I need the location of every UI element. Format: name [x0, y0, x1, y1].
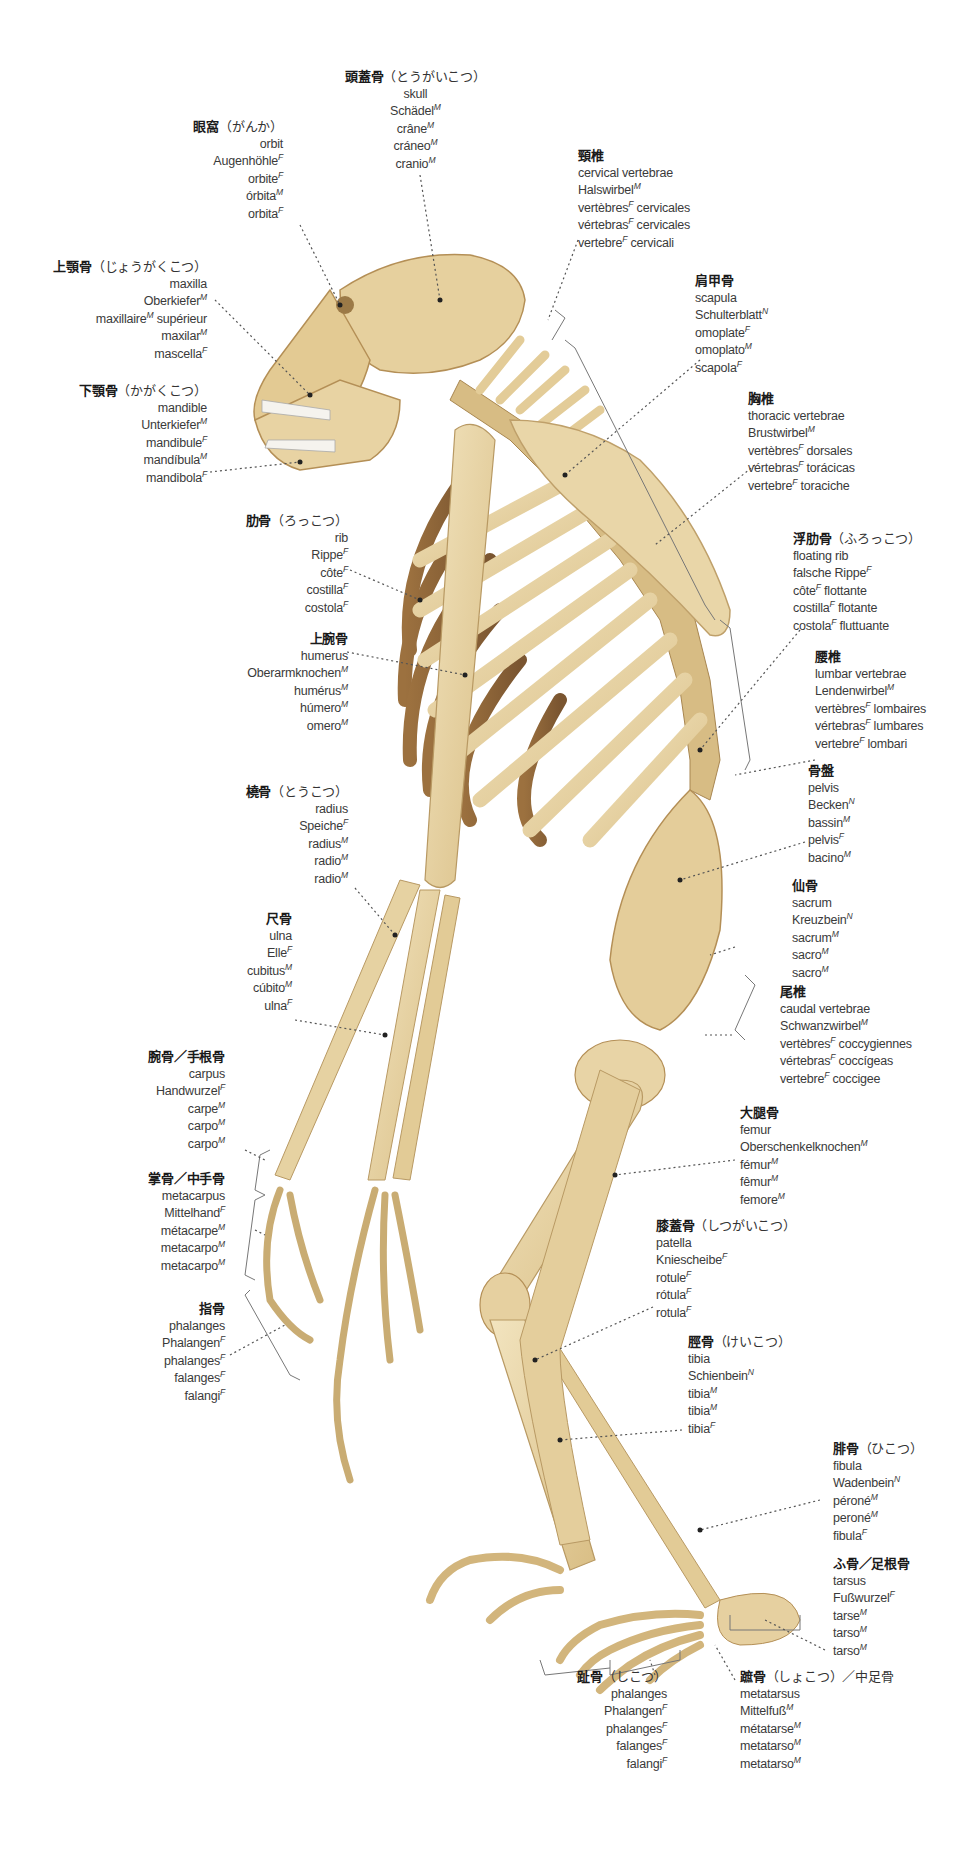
- gender-marker: M: [794, 1720, 801, 1730]
- term-translation: fémurM: [740, 1157, 867, 1175]
- gender-marker: F: [737, 359, 742, 369]
- term-translation: tarsoM: [833, 1625, 910, 1643]
- term-translation: SchädelM: [345, 103, 486, 121]
- term-translation: metacarpoM: [148, 1258, 225, 1276]
- japanese-name: 掌骨／中手骨: [148, 1171, 225, 1186]
- term-translation: vértebrasF torácicas: [748, 460, 855, 478]
- gender-marker: M: [710, 1402, 717, 1412]
- label-orbit: 眼窩（がんか）orbitAugenhöhleForbiteFórbitaMorb…: [193, 118, 283, 223]
- term-translation: vertebreF lombari: [815, 736, 926, 754]
- gender-marker: M: [341, 664, 348, 674]
- kana-reading: （ろっこつ）: [271, 513, 348, 528]
- japanese-name: 腓骨: [833, 1441, 859, 1456]
- term-translation: falangiF: [577, 1756, 667, 1774]
- gender-marker: M: [745, 341, 752, 351]
- label-heading-ja: 腰椎: [815, 648, 926, 666]
- term-translation: HalswirbelM: [578, 182, 690, 200]
- term-translation: costillaF flotante: [793, 600, 921, 618]
- label-tarsus: ふ骨／足根骨tarsusFußwurzelFtarseMtarsoMtarsoM: [833, 1555, 910, 1660]
- label-heading-ja: 肋骨（ろっこつ）: [246, 512, 348, 530]
- term-translation: peronéM: [833, 1510, 923, 1528]
- term-translation: omeroM: [247, 718, 348, 736]
- term-translation: FußwurzelF: [833, 1590, 910, 1608]
- term-translation: fêmurM: [740, 1174, 867, 1192]
- term-translation: sacroM: [792, 965, 852, 983]
- term-translation: vértebrasF lumbares: [815, 718, 926, 736]
- term-translation: bassinM: [808, 815, 854, 833]
- japanese-name: 眼窩: [193, 119, 219, 134]
- gender-marker: F: [890, 1589, 895, 1599]
- term-translation: radioM: [246, 871, 348, 889]
- gender-marker: M: [285, 979, 292, 989]
- gender-marker: F: [343, 564, 348, 574]
- label-heading-ja: 浮肋骨（ふろっこつ）: [793, 530, 921, 548]
- label-carpus: 腕骨／手根骨carpusHandwurzelFcarpeMcarpoMcarpo…: [148, 1048, 225, 1153]
- term-translation: pelvisF: [808, 832, 854, 850]
- gender-marker: M: [218, 1222, 225, 1232]
- gender-marker: M: [860, 1624, 867, 1634]
- term-translation: AugenhöhleF: [193, 153, 283, 171]
- gender-marker: F: [202, 469, 207, 479]
- label-cervical-vertebrae: 頸椎cervical vertebraeHalswirbelMvertèbres…: [578, 147, 690, 252]
- gender-marker: N: [894, 1474, 900, 1484]
- term-translation: fibula: [833, 1458, 923, 1476]
- label-scapula: 肩甲骨scapulaSchulterblattNomoplateFomoplat…: [695, 272, 768, 377]
- kana-reading: （しこつ）: [603, 1669, 667, 1684]
- term-translation: tibiaM: [688, 1403, 790, 1421]
- gender-marker: M: [786, 1702, 793, 1712]
- label-rib: 肋骨（ろっこつ）ribRippeFcôteFcostillaFcostolaF: [246, 512, 348, 617]
- term-translation: LendenwirbelM: [815, 683, 926, 701]
- term-translation: sacroM: [792, 947, 852, 965]
- japanese-name: 膝蓋骨: [656, 1218, 694, 1233]
- label-heading-ja: 膝蓋骨（しつがいこつ）: [656, 1217, 796, 1235]
- term-translation: metatarsus: [740, 1686, 894, 1704]
- gender-marker: F: [866, 564, 871, 574]
- label-heading-ja: 蹠骨（しょこつ）／中足骨: [740, 1668, 894, 1686]
- gender-marker: F: [343, 546, 348, 556]
- gender-marker: F: [278, 152, 283, 162]
- term-translation: cervical vertebrae: [578, 165, 690, 183]
- gender-marker: M: [341, 835, 348, 845]
- gender-marker: M: [200, 327, 207, 337]
- kana-reading: （とうがいこつ）: [383, 69, 485, 84]
- japanese-name: 大腿骨: [740, 1105, 778, 1120]
- term-translation: mascellaF: [53, 346, 207, 364]
- label-maxilla: 上顎骨（じょうがくこつ）maxillaOberkieferMmaxillaire…: [53, 258, 207, 363]
- gender-marker: M: [427, 120, 434, 130]
- label-radius: 橈骨（とうこつ）radiusSpeicheFradiusMradioMradio…: [246, 783, 348, 888]
- label-humerus: 上腕骨humerusOberarmknochenMhumérusMhúmeroM…: [247, 630, 348, 735]
- term-translation: humerus: [247, 648, 348, 666]
- japanese-name: ふ骨／足根骨: [833, 1556, 910, 1571]
- term-translation: húmeroM: [247, 700, 348, 718]
- term-translation: falangesF: [162, 1370, 225, 1388]
- gender-marker: M: [822, 964, 829, 974]
- gender-marker: F: [862, 1527, 867, 1537]
- gender-marker: F: [202, 434, 207, 444]
- label-heading-ja: 脛骨（けいこつ）: [688, 1333, 790, 1351]
- gender-marker: M: [218, 1239, 225, 1249]
- term-translation: métacarpeM: [148, 1223, 225, 1241]
- term-translation: BeckenN: [808, 797, 854, 815]
- label-fibula: 腓骨（ひこつ）fibulaWadenbeinNpéronéMperonéMfib…: [833, 1440, 923, 1545]
- gender-marker: F: [722, 1251, 727, 1261]
- gender-marker: F: [220, 1204, 225, 1214]
- term-translation: maxilla: [53, 276, 207, 294]
- label-heading-ja: 趾骨（しこつ）: [577, 1668, 667, 1686]
- gender-marker: M: [771, 1173, 778, 1183]
- term-translation: omoplateF: [695, 325, 768, 343]
- gender-marker: M: [434, 102, 441, 112]
- label-hand-phalanges: 指骨phalangesPhalangenFphalangesFfalangesF…: [162, 1300, 225, 1405]
- term-translation: mandible: [79, 400, 207, 418]
- term-translation: SchwanzwirbelM: [780, 1018, 912, 1036]
- gender-marker: F: [287, 944, 292, 954]
- term-translation: sacrumM: [792, 930, 852, 948]
- term-translation: ulnaF: [247, 998, 292, 1016]
- label-heading-ja: 肩甲骨: [695, 272, 768, 290]
- term-translation: vertèbresF lombaires: [815, 701, 926, 719]
- gender-marker: M: [832, 929, 839, 939]
- kana-reading: （とうこつ）: [271, 784, 348, 799]
- label-mandible: 下顎骨（かがくこつ）mandibleUnterkieferMmandibuleF…: [79, 382, 207, 487]
- gender-marker: F: [220, 1387, 225, 1397]
- gender-marker: M: [822, 946, 829, 956]
- gender-marker: F: [686, 1269, 691, 1279]
